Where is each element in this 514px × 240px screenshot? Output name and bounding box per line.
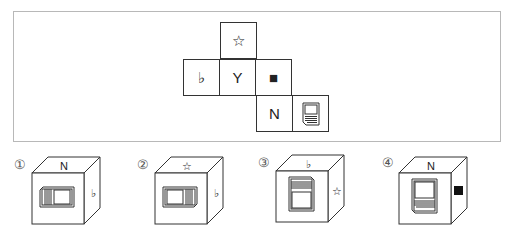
cube-option-1: N ♭ bbox=[30, 155, 105, 225]
black-square-icon: ■ bbox=[269, 69, 278, 86]
cube-top-face: N bbox=[427, 160, 435, 172]
net-cell-star: ☆ bbox=[220, 22, 257, 59]
star-icon: ☆ bbox=[232, 32, 245, 50]
cube-top-face: ♭ bbox=[306, 158, 311, 170]
cube-right-face: ♭ bbox=[91, 187, 96, 199]
letter-y: Y bbox=[232, 69, 242, 86]
document-icon bbox=[302, 102, 320, 126]
net-cell-document bbox=[292, 95, 329, 132]
cube-top-face: ☆ bbox=[182, 160, 192, 172]
letter-n: N bbox=[269, 105, 280, 122]
cube-right-face: ☆ bbox=[332, 185, 342, 197]
option-label: ③ bbox=[258, 155, 270, 170]
net-cell-n: N bbox=[256, 95, 293, 132]
option-label: ② bbox=[137, 157, 149, 172]
black-square-icon bbox=[454, 186, 463, 195]
cube-option-3: ♭ ☆ bbox=[274, 153, 349, 223]
cube-option-2: ☆ ♭ bbox=[153, 155, 228, 225]
net-cell-y: Y bbox=[219, 59, 256, 96]
net-cell-flat: ♭ bbox=[183, 59, 220, 96]
cube-top-face: N bbox=[60, 160, 68, 172]
cube-option-4: N bbox=[397, 155, 472, 225]
option-label: ④ bbox=[382, 155, 394, 170]
flat-sign-icon: ♭ bbox=[198, 69, 205, 87]
cube-right-face: ♭ bbox=[214, 187, 219, 199]
net-cell-square: ■ bbox=[255, 59, 292, 96]
option-label: ① bbox=[14, 157, 26, 172]
